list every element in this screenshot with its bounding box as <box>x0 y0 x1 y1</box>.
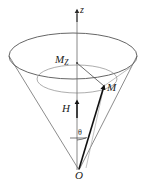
z-axis-label: z <box>80 5 84 15</box>
precession-cone-figure: z MZ M H θ O <box>0 0 145 185</box>
mz-point-marker <box>76 62 78 64</box>
mz-component-label: MZ <box>55 54 68 66</box>
m-vector-label: M <box>107 82 116 93</box>
cone-rim-ellipse <box>9 33 137 79</box>
h-field-label: H <box>62 103 70 114</box>
cone-right-edge <box>79 56 137 170</box>
mz-to-m-line <box>77 63 104 86</box>
origin-label: O <box>75 170 83 181</box>
figure-canvas <box>0 0 145 185</box>
theta-angle-label: θ <box>78 129 82 137</box>
